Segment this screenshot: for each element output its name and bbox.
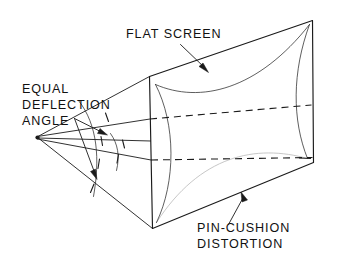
angle-tick-3 (98, 159, 100, 169)
raster-left-curve (156, 85, 172, 223)
equal-deflection-angle-label-line3: ANGLE (22, 114, 69, 128)
angle-arrow-head-lower (91, 169, 98, 180)
equal-deflection-angle-label-group: EQUAL DEFLECTION ANGLE (22, 82, 111, 180)
equal-angle-arc-secondary (111, 134, 119, 171)
raster-right-curve (296, 25, 309, 159)
equal-angle-arc-group (79, 101, 119, 197)
equal-deflection-angle-label-line1: EQUAL (22, 82, 69, 96)
diagram-root: Flat screen deflection and pin-cushion d… (0, 0, 340, 271)
ray-inner-lower (38, 139, 152, 160)
raster-bottom-curve (157, 153, 308, 223)
deflection-center-apex (35, 135, 39, 139)
screen-left-edge (150, 77, 153, 229)
pin-cushion-arrow-head (241, 192, 248, 202)
angle-tick-4 (91, 184, 95, 193)
dashed-construction-lines (150, 105, 313, 160)
angle-arrow-head-upper (98, 129, 108, 136)
flat-screen-plane (150, 21, 314, 229)
pin-cushion-label-line2: DISTORTION (197, 237, 283, 251)
pin-cushion-raster-outline (156, 25, 310, 223)
flat-screen-label: FLAT SCREEN (126, 27, 222, 41)
pin-cushion-label-line1: PIN-CUSHION (197, 221, 290, 235)
ray-to-bottom-left-corner (37, 137, 153, 229)
flat-screen-arrow-head (199, 63, 209, 73)
angle-tick-2 (101, 137, 103, 146)
angle-tick-1 (106, 113, 109, 122)
apex-point (35, 135, 39, 139)
technical-diagram-svg: Flat screen deflection and pin-cushion d… (0, 0, 340, 271)
pin-cushion-label-group: PIN-CUSHION DISTORTION (197, 192, 290, 251)
angle-tick-5 (123, 140, 125, 148)
ray-inner-middle (38, 138, 151, 141)
screen-right-edge (313, 21, 314, 163)
equal-deflection-angle-label-line2: DEFLECTION (22, 98, 111, 112)
dashed-line-upper (150, 105, 312, 119)
flat-screen-label-group: FLAT SCREEN (126, 27, 222, 73)
dashed-line-lower-stub (300, 158, 311, 159)
